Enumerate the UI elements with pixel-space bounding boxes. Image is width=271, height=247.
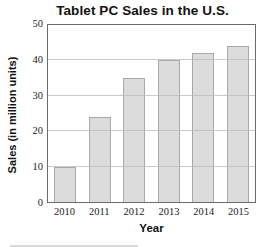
y-axis-tick-labels: 01020304050 — [0, 0, 43, 247]
gridline-10 — [48, 166, 255, 167]
y-tick-label-30: 30 — [0, 90, 43, 102]
bar-2014 — [192, 53, 214, 202]
tablet-sales-bar-chart: Tablet PC Sales in the U.S. Sales (in mi… — [0, 0, 271, 247]
x-axis-tick-labels: 201020112012201320142015 — [47, 206, 256, 217]
gridline-20 — [48, 130, 255, 131]
bar-2013 — [158, 60, 180, 202]
x-tick-label-2012: 2012 — [117, 206, 152, 217]
y-tick-label-50: 50 — [0, 18, 43, 30]
plot-area — [47, 24, 256, 203]
y-tick-label-40: 40 — [0, 54, 43, 66]
x-tick-label-2015: 2015 — [221, 206, 256, 217]
gridline-40 — [48, 59, 255, 60]
chart-title: Tablet PC Sales in the U.S. — [14, 3, 271, 18]
bar-2015 — [227, 46, 249, 202]
bar-group — [48, 25, 255, 202]
bar-2012 — [123, 78, 145, 202]
y-tick-label-0: 0 — [0, 197, 43, 209]
x-tick-label-2014: 2014 — [186, 206, 221, 217]
x-axis-title: Year — [47, 222, 256, 234]
gridline-30 — [48, 95, 255, 96]
y-tick-label-20: 20 — [0, 125, 43, 137]
x-tick-label-2011: 2011 — [82, 206, 117, 217]
y-tick-label-10: 10 — [0, 161, 43, 173]
x-tick-label-2010: 2010 — [47, 206, 82, 217]
x-tick-label-2013: 2013 — [151, 206, 186, 217]
bar-2010 — [54, 167, 76, 202]
